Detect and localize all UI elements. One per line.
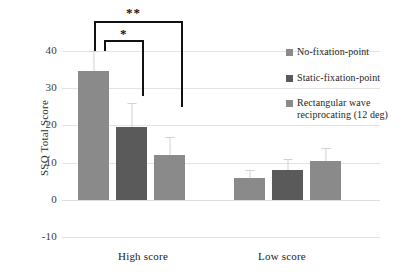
bar-high-score-series-1 [116, 127, 147, 200]
y-tick-label-0: 0 [11, 193, 57, 205]
gridline-0 [62, 200, 380, 201]
y-tick-label-40: 40 [11, 44, 57, 56]
bar-high-score-series-0 [78, 71, 109, 200]
bar-low-score-series-1 [272, 170, 303, 200]
legend-swatch-icon [286, 49, 293, 56]
error-bar [131, 103, 132, 126]
gridline-minus-10 [62, 237, 380, 238]
error-bar-cap [165, 137, 174, 138]
y-tick-label-30: 30 [11, 81, 57, 93]
y-tick-label-10: 10 [11, 156, 57, 168]
error-bar [249, 170, 250, 177]
bar-rect [116, 127, 147, 200]
legend-label: No-fixation-point [297, 46, 369, 58]
bar-rect [154, 155, 185, 200]
legend-label: Rectangular wave reciprocating (12 deg) [297, 97, 404, 120]
error-bar-cap [89, 51, 98, 52]
legend: No-fixation-point Static-fixation-point … [286, 46, 404, 134]
bar-rect [234, 178, 265, 200]
ssq-bar-chart: SSQ Total Score 40 30 20 10 0 -10 ** * H… [0, 0, 406, 275]
legend-item-static-fixation-point: Static-fixation-point [286, 72, 404, 84]
bar-rect [310, 161, 341, 200]
y-tick-label-20: 20 [11, 118, 57, 130]
y-tick-label-minus-10: -10 [11, 230, 57, 242]
legend-item-rectangular-wave: Rectangular wave reciprocating (12 deg) [286, 97, 404, 120]
bar-rect [272, 170, 303, 200]
error-bar-cap [321, 148, 330, 149]
error-bar [93, 51, 94, 71]
legend-swatch-icon [286, 100, 293, 107]
error-bar [325, 148, 326, 161]
error-bar [169, 137, 170, 156]
legend-swatch-icon [286, 75, 293, 82]
x-group-label-low-score: Low score [234, 250, 330, 262]
legend-item-no-fixation-point: No-fixation-point [286, 46, 404, 58]
x-group-label-high-score: High score [95, 250, 191, 262]
bar-high-score-series-2 [154, 155, 185, 200]
error-bar [287, 159, 288, 170]
significance-label-double: ** [126, 6, 141, 19]
significance-label-single: * [120, 27, 128, 40]
legend-label: Static-fixation-point [297, 72, 380, 84]
bar-low-score-series-0 [234, 178, 265, 200]
error-bar-cap [283, 159, 292, 160]
error-bar-cap [127, 103, 136, 104]
error-bar-cap [245, 170, 254, 171]
bar-low-score-series-2 [310, 161, 341, 200]
bar-rect [78, 71, 109, 200]
